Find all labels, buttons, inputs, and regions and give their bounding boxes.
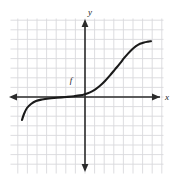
- curve-label-f: f: [70, 75, 74, 85]
- y-axis-arrow-down-icon: [82, 164, 89, 172]
- x-axis-arrow-left-icon: [9, 94, 17, 101]
- function-curve: [22, 41, 151, 120]
- plot-canvas: x y f: [0, 0, 180, 184]
- axes-group: [9, 19, 160, 172]
- x-axis-label: x: [164, 92, 169, 102]
- y-axis-label: y: [87, 7, 92, 17]
- function-graph-figure: x y f: [0, 0, 180, 184]
- grid-lines: [11, 19, 164, 174]
- x-axis-arrow-right-icon: [152, 94, 160, 101]
